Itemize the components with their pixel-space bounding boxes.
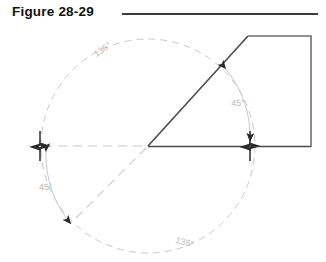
- angle-ray-upper-right: [148, 36, 248, 146]
- angle-label-lower-right: 135°: [174, 235, 195, 249]
- construction-ray-lower-left: [71, 148, 146, 223]
- technical-diagram: 135° 45° 45° 135°: [0, 0, 326, 262]
- figure-container: Figure 28-29: [0, 0, 326, 262]
- angle-label-upper-right: 45°: [231, 98, 245, 108]
- part-outline: [248, 36, 311, 147]
- angle-label-upper-left: 135°: [92, 40, 113, 59]
- angle-label-lower-left: 45°: [39, 182, 54, 193]
